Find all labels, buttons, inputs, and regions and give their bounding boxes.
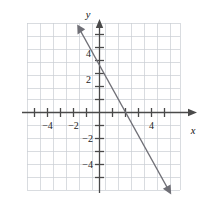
grid-lines-horizontal xyxy=(27,24,180,191)
y-tick-label-neg2: −2 xyxy=(82,133,93,144)
y-tick-label-2: 2 xyxy=(86,74,91,85)
y-axis-label: y xyxy=(85,9,91,20)
x-axis-label: x xyxy=(190,125,196,136)
coordinate-plane-svg: −4 −2 4 4 2 −2 −4 x y xyxy=(0,0,210,208)
y-axis xyxy=(96,19,103,193)
x-tick-label-4: 4 xyxy=(149,120,154,131)
coordinate-graph-figure: −4 −2 4 4 2 −2 −4 x y xyxy=(0,0,210,208)
line-segment xyxy=(80,30,168,189)
x-axis-arrow-icon xyxy=(188,109,197,116)
x-tick-label-neg4: −4 xyxy=(42,120,53,131)
y-tick-label-neg4: −4 xyxy=(82,159,93,170)
x-tick-label-neg2: −2 xyxy=(68,120,79,131)
